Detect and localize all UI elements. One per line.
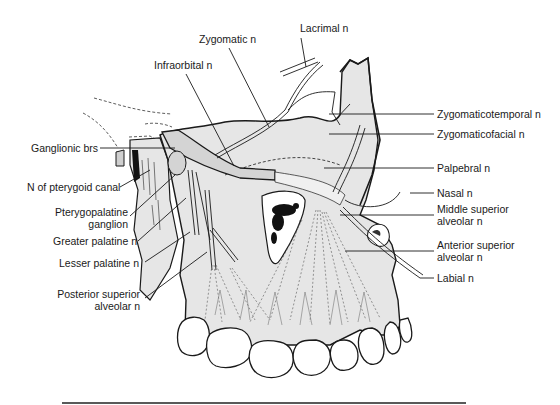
label-anterior-superior-alveolar-n: Anterior superior alveolar n (437, 239, 515, 263)
label-ganglionic-brs: Ganglionic brs (31, 142, 98, 154)
anatomy-diagram: Lacrimal n Zygomatic n Infraorbital n Zy… (0, 0, 560, 405)
label-zygomatic-n: Zygomatic n (199, 33, 256, 45)
label-middle-superior-alveolar-n: Middle superior alveolar n (437, 203, 509, 227)
label-posterior-superior-alveolar-n: Posterior superior alveolar n (57, 288, 140, 312)
label-pterygopalatine-ganglion: Pterygopalatine ganglion (55, 206, 128, 230)
label-lesser-palatine-n: Lesser palatine n (59, 257, 139, 269)
label-infraorbital-n: Infraorbital n (154, 59, 212, 71)
label-lacrimal-n: Lacrimal n (300, 22, 348, 34)
label-greater-palatine-n: Greater palatine n (53, 235, 137, 247)
label-palpebral-n: Palpebral n (437, 162, 490, 174)
label-zygomaticofacial-n: Zygomaticofacial n (437, 128, 525, 140)
pterygopalatine-ganglion-shape (168, 151, 186, 175)
label-n-of-pterygoid-canal: N of pterygoid canal (27, 181, 120, 193)
label-labial-n: Labial n (437, 272, 474, 284)
label-zygomaticotemporal-n: Zygomaticotemporal n (437, 108, 541, 120)
label-nasal-n: Nasal n (437, 187, 473, 199)
